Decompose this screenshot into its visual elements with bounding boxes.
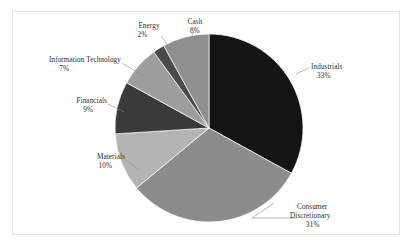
pie-label-energy-name: Energy [131,22,167,31]
pie-label-information-technology-value: 7% [35,65,121,74]
pie-label-energy: Energy 2% [131,22,167,40]
pie-slice-group [115,34,303,222]
pie-label-information-technology: Information Technology 7% [35,56,121,74]
pie-label-cash-name: Cash [179,18,211,27]
leader-line-industrials [296,68,309,74]
pie-label-materials: Materials 10% [79,153,125,171]
pie-label-consumer-discretionary-value: 31% [297,221,330,230]
pie-label-industrials-name: Industrials [311,63,342,72]
chart-canvas: Industrials 33% Consumer Discretionary 3… [0,0,413,252]
pie-label-materials-name: Materials [79,153,125,162]
pie-label-financials: Financials 9% [62,97,107,115]
pie-chart-plot [0,0,413,252]
pie-label-consumer-discretionary-name2: Discretionary [290,212,330,221]
pie-label-consumer-discretionary-name1: Consumer [297,203,330,212]
pie-label-energy-value: 2% [131,31,167,40]
pie-label-cash: Cash 8% [179,18,211,36]
pie-label-financials-name: Financials [62,97,107,106]
pie-label-information-technology-name: Information Technology [35,56,121,65]
pie-label-consumer-discretionary: Consumer Discretionary 31% [297,203,330,231]
pie-label-industrials-value: 33% [311,72,342,81]
pie-label-industrials: Industrials 33% [311,63,342,81]
pie-label-cash-value: 8% [179,27,211,36]
pie-label-materials-value: 10% [79,162,125,171]
pie-label-financials-value: 9% [62,106,107,115]
